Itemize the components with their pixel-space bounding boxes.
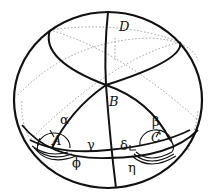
angle-label-beta: β: [152, 114, 160, 129]
point-label-c: C: [151, 130, 161, 145]
point-label-b: B: [108, 94, 119, 109]
angle-label-gamma: γ: [87, 137, 95, 152]
point-label-d: D: [118, 19, 130, 34]
sphere-diagram: D B A C α β γ δ ϕ η: [0, 0, 216, 196]
angle-label-eta: η: [128, 160, 136, 175]
point-label-a: A: [51, 133, 61, 148]
angle-label-phi: ϕ: [72, 155, 81, 170]
angle-label-delta: δ: [120, 138, 128, 153]
dotted-back-lines: [18, 27, 198, 150]
angle-label-alpha: α: [60, 112, 69, 127]
great-circle-left-outer: [50, 30, 80, 105]
